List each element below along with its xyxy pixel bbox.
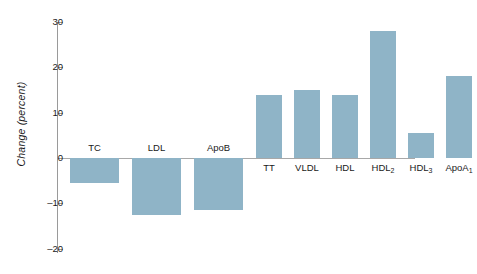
- plot-area: TCLDLApoBTTVLDLHDLHDL2HDL3ApoA1: [58, 0, 415, 274]
- bar-label-apob: ApoB: [180, 142, 257, 153]
- bar-hdl: [332, 95, 358, 158]
- y-axis-tick-group: 20: [22, 67, 63, 68]
- y-axis-title: Change (percent): [15, 59, 27, 189]
- y-axis-tick-group: 10: [22, 113, 63, 114]
- bar-tt: [256, 95, 282, 158]
- bar-ldl: [132, 158, 181, 215]
- y-axis-tick-group: –20: [22, 249, 63, 250]
- bar-tc: [70, 158, 119, 183]
- bar-apoa1: [446, 76, 472, 158]
- bar-label-apoa1: ApoA1: [432, 162, 477, 173]
- bar-vldl: [294, 90, 320, 158]
- bar-hdl2: [370, 31, 396, 158]
- bar-apob: [194, 158, 243, 210]
- bar-hdl3: [408, 133, 434, 158]
- y-axis-tick-group: 0: [22, 158, 63, 159]
- y-axis-tick-group: –10: [22, 203, 63, 204]
- y-axis-tick-group: 30: [22, 22, 63, 23]
